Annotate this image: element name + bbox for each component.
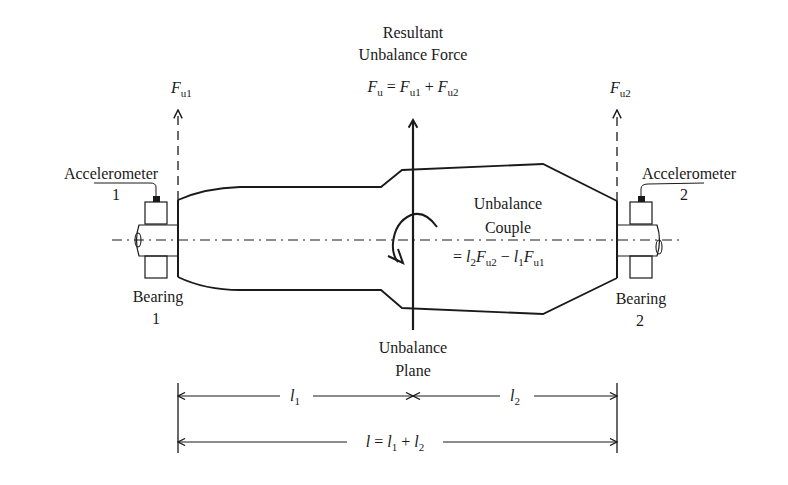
- accelerometer-1-sensor: [94, 183, 160, 202]
- unbalance-plane-label-line2: Plane: [395, 362, 431, 379]
- resultant-label-line1: Resultant: [383, 24, 444, 41]
- rotor-body: [178, 164, 617, 314]
- accelerometer-1-number: 1: [112, 186, 120, 203]
- accelerometer-2-sensor: [638, 183, 704, 202]
- resultant-label-line2: Unbalance Force: [359, 46, 468, 63]
- resultant-equation: Fu = Fu1 + Fu2: [367, 78, 459, 98]
- fu2-label: Fu2: [609, 79, 631, 99]
- dimension-total-label: l = l1 + l2: [366, 433, 424, 453]
- bearing-1-label: Bearing: [133, 288, 184, 306]
- accelerometer-1-label: Accelerometer: [64, 165, 159, 182]
- accelerometer-2-label: Accelerometer: [642, 165, 737, 182]
- couple-equation: = l2Fu2 − l1Fu1: [453, 248, 545, 268]
- bearing-2-label: Bearing: [616, 290, 667, 308]
- unbalance-plane-label-line1: Unbalance: [379, 339, 447, 356]
- dimension-l2-label: l2: [510, 387, 520, 407]
- fu1-label: Fu1: [170, 79, 192, 99]
- rotor-unbalance-diagram: Resultant Unbalance Force Fu = Fu1 + Fu2…: [0, 0, 788, 485]
- bearing-2-number: 2: [636, 312, 644, 329]
- accelerometer-2-number: 2: [680, 186, 688, 203]
- dimension-l1-label: l1: [290, 387, 300, 407]
- couple-label-line1: Unbalance: [474, 195, 542, 212]
- couple-label-line2: Couple: [485, 219, 531, 237]
- bearing-1-number: 1: [152, 310, 160, 327]
